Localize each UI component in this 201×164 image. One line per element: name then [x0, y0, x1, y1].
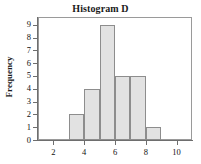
histogram-bar — [146, 127, 161, 140]
y-axis-tick — [33, 89, 37, 90]
y-axis-tick — [33, 76, 37, 77]
chart-title: Histogram D — [0, 3, 201, 14]
y-axis-tick-label: 9 — [20, 20, 31, 28]
y-axis-tick-label: 6 — [20, 59, 31, 67]
y-axis-tick — [33, 63, 37, 64]
histogram-bar — [100, 25, 115, 140]
histogram-bar — [130, 76, 145, 140]
histogram-bar — [69, 114, 84, 140]
y-axis-tick-label: 4 — [20, 84, 31, 92]
y-axis-tick-label: 3 — [20, 97, 31, 105]
y-axis-tick — [33, 102, 37, 103]
histogram-bar — [84, 89, 99, 140]
y-axis-tick-label: 7 — [20, 46, 31, 54]
y-axis-line — [37, 17, 38, 141]
x-axis-tick — [53, 141, 54, 145]
y-axis-tick-label: 2 — [20, 110, 31, 118]
y-axis-tick-label: 0 — [20, 136, 31, 144]
x-axis-tick-label: 8 — [138, 148, 154, 157]
y-axis-tick-label: 8 — [20, 33, 31, 41]
y-axis-tick — [33, 140, 37, 141]
y-axis-tick-label: 5 — [20, 71, 31, 79]
x-axis-tick — [146, 141, 147, 145]
y-axis-tick — [33, 25, 37, 26]
y-axis-tick — [33, 50, 37, 51]
x-axis-tick-label: 2 — [45, 148, 61, 157]
histogram-bar — [115, 76, 130, 140]
x-axis-tick-label: 6 — [107, 148, 123, 157]
y-axis-tick — [33, 114, 37, 115]
x-axis-tick — [84, 141, 85, 145]
y-axis-tick — [33, 38, 37, 39]
x-axis-tick — [177, 141, 178, 145]
y-axis-tick — [33, 127, 37, 128]
x-axis-tick-label: 4 — [76, 148, 92, 157]
y-axis-tick-label: 1 — [20, 123, 31, 131]
y-axis-title: Frequency — [4, 47, 14, 107]
x-axis-tick-label: 10 — [169, 148, 185, 157]
x-axis-tick — [115, 141, 116, 145]
histogram-chart: Histogram D Frequency 0123456789 246810 — [0, 0, 201, 164]
